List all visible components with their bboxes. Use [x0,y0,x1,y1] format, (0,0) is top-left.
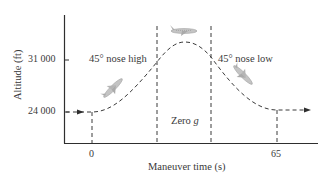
x-tick-label-0: 0 [89,148,94,159]
airplane-climbing-icon [100,75,127,102]
y-axis-label: Altitude (ft) [12,50,23,100]
annotation-nose-low: 45° nose low [218,53,273,64]
airplane-level-icon [170,25,197,36]
arrow-end-icon [304,108,311,113]
annotation-nose-high: 45° nose high [89,53,147,64]
annotation-zero-g: Zero g [171,115,199,126]
x-axis-label: Maneuver time (s) [148,161,226,172]
y-tick-label-31000: 31 000 [28,53,56,64]
zero-g-text: Zero [171,115,193,126]
arrow-start-icon [77,110,84,115]
y-tick-label-24000: 24 000 [28,105,56,116]
x-tick-label-65: 65 [271,148,281,159]
zero-g-variable: g [193,115,198,126]
